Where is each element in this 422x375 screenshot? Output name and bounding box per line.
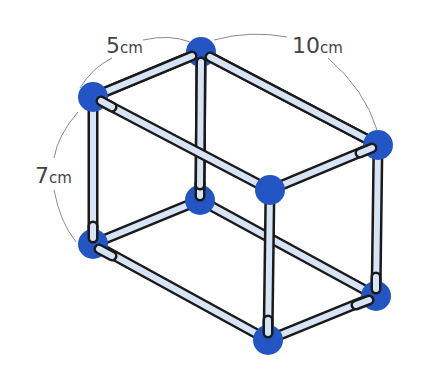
prism-svg: 5cm 7cm 10cm [0,0,422,375]
arc-10cm-left [214,34,287,40]
label-10cm: 10cm [292,33,343,58]
label-5cm: 5cm [106,33,143,58]
prism-diagram: 5cm 7cm 10cm [0,0,422,375]
arc-7cm-upper [54,112,78,158]
vertex-D [255,175,285,205]
arc-5cm-upper [143,37,190,42]
label-7cm: 7cm [35,163,72,188]
arc-7cm-lower [54,190,76,242]
